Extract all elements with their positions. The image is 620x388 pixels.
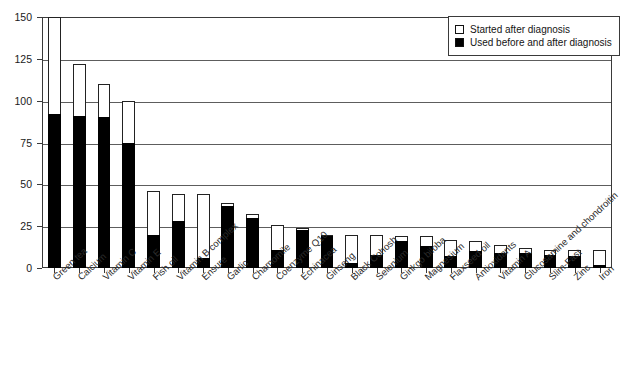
- legend-item-label: Used before and after diagnosis: [470, 37, 612, 49]
- bar-chart: 0255075100125150 Green teaCalciumVitamin…: [0, 0, 620, 388]
- legend-item-started-after-diagnosis: Started after diagnosis: [455, 24, 612, 36]
- legend: Started after diagnosis Used before and …: [448, 16, 620, 56]
- x-tick-label: Zinc: [572, 263, 592, 282]
- x-tick-label: Iron: [597, 264, 616, 282]
- legend-item-label: Started after diagnosis: [470, 24, 570, 36]
- open-square-icon: [455, 25, 464, 34]
- legend-item-used-before-and-after-diagnosis: Used before and after diagnosis: [455, 37, 612, 49]
- filled-square-icon: [455, 38, 464, 47]
- x-axis-labels: Green teaCalciumVitamin CVitamin EFish o…: [0, 0, 620, 388]
